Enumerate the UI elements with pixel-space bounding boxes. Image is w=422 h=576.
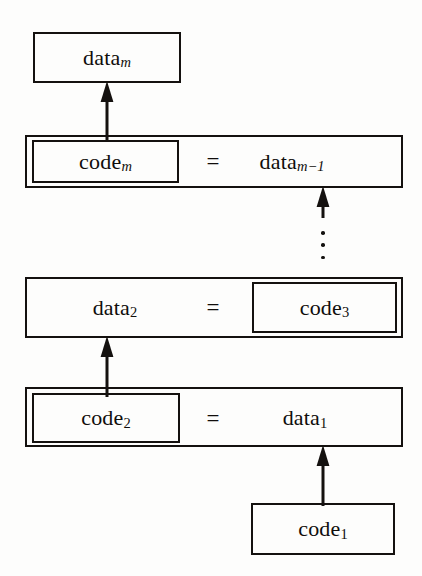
label-code-2: code2 bbox=[32, 393, 180, 443]
label-data-m: datam bbox=[33, 32, 181, 83]
label-data-2: data2 bbox=[45, 277, 185, 338]
ellipsis-dot bbox=[321, 243, 325, 247]
subscript-m-minus-1: m−1 bbox=[297, 159, 325, 174]
diagram-canvas: datam codem = datam−1 data2 = code3 bbox=[0, 0, 422, 576]
subscript-2: 2 bbox=[130, 305, 137, 320]
subscript-2: 2 bbox=[124, 416, 131, 431]
ellipsis-dot bbox=[321, 231, 325, 235]
arrow-code-1-to-data-1 bbox=[313, 444, 333, 506]
equals-sign-row-2: = bbox=[196, 140, 230, 183]
ellipsis-dot bbox=[321, 256, 325, 260]
equals-sign-row-4: = bbox=[196, 393, 230, 443]
subscript-3: 3 bbox=[342, 305, 349, 320]
subscript-1: 1 bbox=[341, 527, 348, 542]
subscript-1: 1 bbox=[320, 416, 327, 431]
label-code-m: codem bbox=[32, 140, 179, 183]
arrow-code-m-to-data-m bbox=[97, 80, 117, 142]
label-code-3: code3 bbox=[252, 282, 397, 333]
subscript-m: m bbox=[120, 55, 130, 70]
label-data-m-minus-1: datam−1 bbox=[232, 140, 352, 183]
equals-sign-row-3: = bbox=[196, 277, 230, 338]
arrow-chain-to-data-m-minus-1 bbox=[313, 186, 333, 218]
subscript-m: m bbox=[121, 159, 131, 174]
label-data-1: data1 bbox=[240, 393, 370, 443]
label-code-1: code1 bbox=[251, 503, 395, 555]
vertical-ellipsis bbox=[321, 231, 325, 259]
